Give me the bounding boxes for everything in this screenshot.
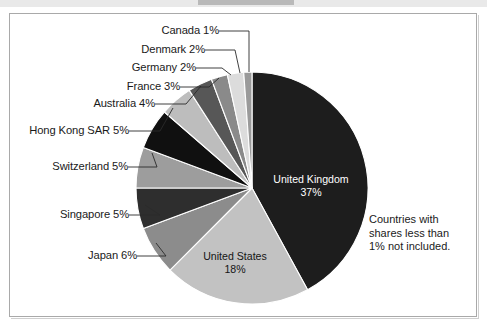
slice-label-united-states: United States 18% xyxy=(180,250,290,275)
leader-line-denmark xyxy=(205,50,240,73)
leader-line-germany xyxy=(196,68,231,75)
slice-label-united-kingdom: United Kingdom 37% xyxy=(256,173,366,198)
slice-label-germany: Germany 2% xyxy=(46,61,196,74)
slice-label-united-states-name: United States xyxy=(203,250,267,262)
figure-canvas: Canada 1% Denmark 2% Germany 2% France 3… xyxy=(0,0,487,330)
slice-label-united-states-percent: 18% xyxy=(224,263,245,275)
leader-line-canada xyxy=(219,31,249,72)
slice-label-united-kingdom-name: United Kingdom xyxy=(273,173,348,185)
slice-label-singapore: Singapore 5% xyxy=(0,208,129,221)
slice-label-hong-kong: Hong Kong SAR 5% xyxy=(0,124,129,137)
slice-label-denmark: Denmark 2% xyxy=(55,43,205,56)
slice-label-france: France 3% xyxy=(30,80,180,93)
slice-label-canada: Canada 1% xyxy=(69,24,219,37)
slice-label-japan: Japan 6% xyxy=(0,249,137,262)
slice-label-australia: Australia 4% xyxy=(5,97,155,110)
slice-label-united-kingdom-percent: 37% xyxy=(300,186,321,198)
pie-chart: Canada 1% Denmark 2% Germany 2% France 3… xyxy=(0,0,487,330)
slice-label-switzerland: Switzerland 5% xyxy=(0,160,128,173)
chart-note: Countries with shares less than 1% not i… xyxy=(369,213,475,254)
